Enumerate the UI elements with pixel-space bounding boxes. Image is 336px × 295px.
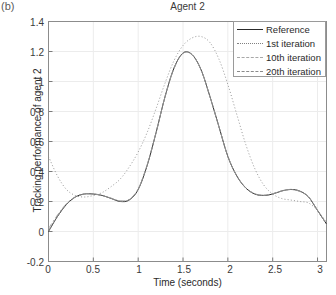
y-tick-label: -0.2: [4, 257, 44, 268]
legend-entry-20th-iteration: 20th iteration: [234, 64, 325, 78]
y-tick-label: 0.6: [4, 137, 44, 148]
x-tick-label: 3: [317, 264, 323, 275]
x-tick-label: 0: [45, 264, 51, 275]
y-tick-labels: 1.4 1.2 1 0.8 0.6 0.4 0.2 0 -0.2: [0, 0, 44, 295]
legend-entry-10th-iteration: 10th iteration: [234, 50, 325, 64]
legend-line-sample-dotted: [237, 38, 263, 48]
x-tick-label: 2.5: [268, 264, 282, 275]
legend-label: Reference: [266, 24, 310, 35]
y-tick-label: 0.2: [4, 197, 44, 208]
x-tick-label: 0.5: [86, 264, 100, 275]
y-tick-label: 1.4: [4, 17, 44, 28]
legend-label: 1st iteration: [266, 38, 315, 49]
y-tick-label: 0: [4, 227, 44, 238]
legend-label: 10th iteration: [266, 52, 321, 63]
y-tick-label: 1: [4, 77, 44, 88]
y-tick-label: 1.2: [4, 47, 44, 58]
legend[interactable]: Reference 1st iteration 10th iteration 2…: [233, 21, 326, 77]
y-tick-label: 0.8: [4, 107, 44, 118]
x-tick-label: 1: [136, 264, 142, 275]
figure-panel: (b) Agent 2 Tracking performance of agen…: [0, 0, 336, 295]
y-tick-label: 0.4: [4, 167, 44, 178]
legend-entry-reference: Reference: [234, 22, 325, 36]
legend-line-sample-dashdot: [237, 52, 263, 62]
legend-label: 20th iteration: [266, 66, 321, 77]
legend-line-sample-dashed: [237, 66, 263, 76]
legend-line-sample-solid: [237, 24, 263, 34]
x-tick-label: 1.5: [177, 264, 191, 275]
chart-title: Agent 2: [48, 1, 327, 12]
legend-entry-1st-iteration: 1st iteration: [234, 36, 325, 50]
x-axis-label: Time (seconds): [48, 277, 327, 288]
x-tick-label: 2: [227, 264, 233, 275]
series-line-10th-iteration: [49, 52, 327, 228]
